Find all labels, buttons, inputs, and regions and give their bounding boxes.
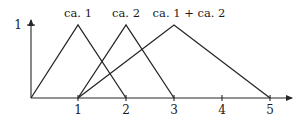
series-label-ca-2: ca. 2	[112, 8, 140, 20]
x-axis-tick-label-2: 2	[122, 104, 130, 116]
x-axis-tick-label-3: 3	[170, 104, 178, 116]
series-label-ca-1-plus-ca-2: ca. 1 + ca. 2	[153, 8, 226, 20]
series-line-ca-1-plus-ca-2	[78, 25, 270, 98]
x-axis-tick-label-4: 4	[218, 104, 226, 116]
series-label-ca-1: ca. 1	[64, 8, 92, 20]
membership-function-chart: ca. 1 ca. 2 ca. 1 + ca. 2 1 1 2 3 4 5	[0, 0, 306, 121]
x-axis-tick-label-5: 5	[266, 104, 274, 116]
x-axis-tick-label-1: 1	[74, 104, 82, 116]
series-line-ca-1	[31, 25, 126, 98]
y-axis-tick-label-1: 1	[14, 19, 22, 31]
